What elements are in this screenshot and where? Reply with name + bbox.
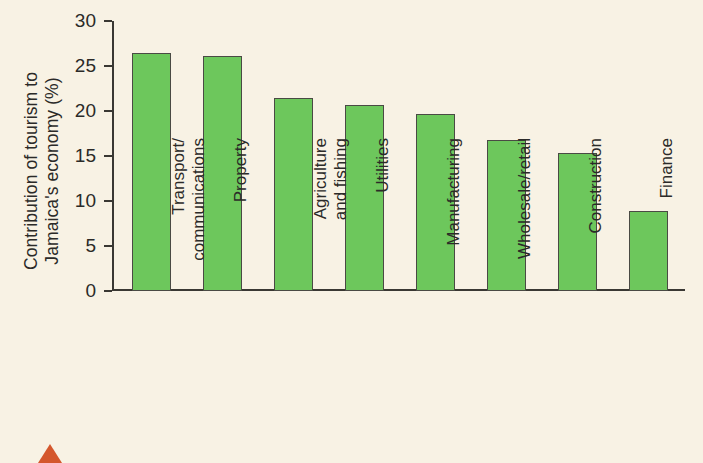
y-tick-mark [104, 65, 112, 67]
y-tick-label: 10 [24, 191, 96, 210]
y-tick-label: 5 [24, 236, 96, 255]
x-axis-label-line: communications [189, 138, 209, 261]
y-tick-mark [104, 200, 112, 202]
x-axis-label-line: Agriculture [311, 138, 331, 219]
y-tick-mark [104, 155, 112, 157]
y-tick-label: 30 [24, 11, 96, 30]
bar-chart-figure: Contribution of tourism to Jamaica's eco… [0, 0, 703, 463]
bar [132, 53, 171, 292]
x-axis-label-line: Transport/ [169, 138, 189, 215]
y-tick-mark [104, 110, 112, 112]
x-axis-label: Agricultureand fishing [311, 138, 381, 298]
x-axis-label: Wholesale/retail [515, 138, 585, 298]
x-axis-label: Utilities [373, 138, 443, 298]
x-axis-label: Property [231, 138, 301, 298]
x-axis-label-line: Wholesale/retail [515, 138, 535, 259]
y-tick-mark [104, 290, 112, 292]
y-tick-mark [104, 245, 112, 247]
y-tick-label: 15 [24, 146, 96, 165]
x-axis-label: Manufacturing [444, 138, 514, 298]
x-axis-label-line: Construction [586, 138, 606, 233]
orange-triangle-icon [38, 444, 62, 463]
x-axis-label-line: Utilities [373, 138, 393, 193]
x-axis-label-line: Manufacturing [444, 138, 464, 246]
x-axis-label: Finance [657, 138, 703, 298]
y-tick-mark [104, 20, 112, 22]
x-axis-label: Construction [586, 138, 656, 298]
x-axis-label-line: Finance [657, 138, 677, 198]
x-axis-label-line: and fishing [331, 138, 351, 220]
y-tick-label: 20 [24, 101, 96, 120]
y-tick-label: 25 [24, 56, 96, 75]
x-axis-label-line: Property [231, 138, 251, 202]
y-tick-label: 0 [24, 281, 96, 300]
x-axis-label: Transport/communications [169, 138, 239, 298]
